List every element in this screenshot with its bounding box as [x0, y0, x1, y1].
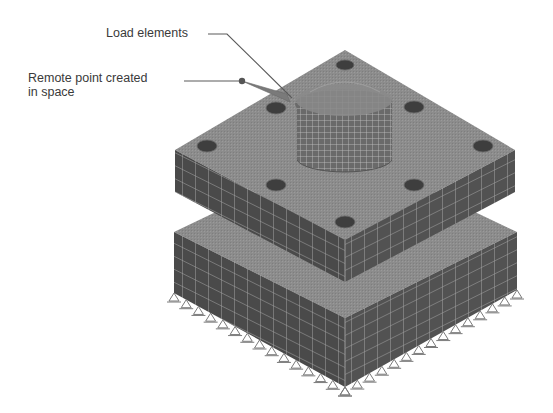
label-remote-point: Remote point created in space [28, 71, 148, 99]
label-remote-point-line1: Remote point created [28, 71, 148, 85]
hole-icon [473, 140, 493, 152]
label-load-elements: Load elements [106, 26, 188, 40]
remote-point-marker-icon [239, 78, 245, 84]
leader-lines [184, 34, 292, 102]
fe-mesh-figure [0, 0, 553, 413]
hole-icon [404, 101, 424, 113]
label-remote-point-line2: in space [28, 85, 148, 99]
hole-icon [266, 102, 286, 114]
support-triangle-icon [338, 387, 352, 396]
hole-icon [336, 60, 354, 70]
hole-icon [266, 179, 286, 191]
load-elements-leader [208, 34, 292, 98]
cylindrical-boss [295, 82, 392, 172]
hole-icon [335, 216, 355, 228]
hole-icon [197, 140, 217, 152]
hole-icon [404, 179, 424, 191]
